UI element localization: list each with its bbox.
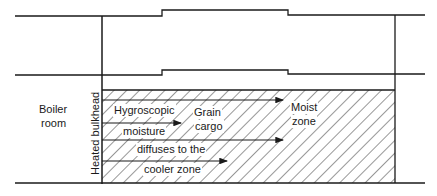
upper-deck-line xyxy=(15,10,425,16)
cargo-label: cargo xyxy=(194,120,224,133)
diagram-canvas xyxy=(0,0,437,196)
lower-deck-line xyxy=(15,70,425,75)
heated-bulkhead-label: Heated bulkhead xyxy=(89,92,101,175)
zone-label: zone xyxy=(291,115,317,128)
cooler-zone-label: cooler zone xyxy=(143,163,202,176)
moisture-label: moisture xyxy=(122,125,166,138)
moist-label: Moist xyxy=(290,101,318,114)
grain-label: Grain xyxy=(193,106,222,119)
boiler-room-label-1: Boiler xyxy=(38,103,68,116)
diffuses-label: diffuses to the xyxy=(136,143,206,156)
hygroscopic-label: Hygroscopic xyxy=(113,104,176,117)
boiler-room-label-2: room xyxy=(40,117,67,130)
